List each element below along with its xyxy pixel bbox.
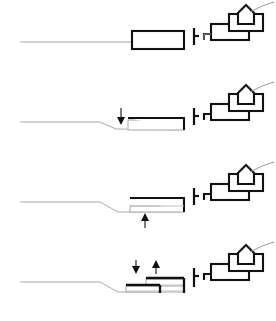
- panel-2-down-arrow: [117, 108, 125, 125]
- panel-4-roof-line: [250, 242, 274, 252]
- panel-1-main-volume: [132, 31, 184, 49]
- panel-2-main-volume: [128, 118, 184, 130]
- panel-4-post-icon: [194, 268, 199, 287]
- panel-4: [0, 240, 276, 321]
- panel-3-main-volume: [130, 198, 184, 212]
- panel-3-post-icon: [194, 188, 199, 205]
- panel-1: [0, 0, 276, 80]
- panel-2-post-icon: [194, 108, 199, 125]
- panel-2: [0, 80, 276, 160]
- panel-4-up-arrow: [152, 260, 160, 274]
- panel-1-post-icon: [194, 28, 199, 45]
- panel-3-roof-line: [250, 162, 274, 172]
- panel-3-up-arrow: [141, 213, 149, 228]
- panel-3: [0, 160, 276, 240]
- section-diagram: [0, 0, 276, 321]
- panel-4-down-arrow: [132, 260, 140, 274]
- panel-2-roof-line: [250, 82, 274, 92]
